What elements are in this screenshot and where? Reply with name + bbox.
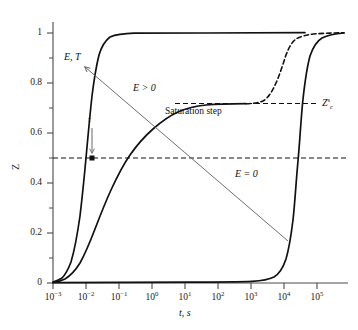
y-axis-title-text: Z	[10, 164, 21, 170]
x-tick-label-1e4: 104	[269, 292, 299, 302]
x-axis-title-text: t, s	[179, 307, 191, 318]
zero-field-label: E = 0	[235, 168, 258, 179]
positive-field-label: E > 0	[133, 82, 156, 93]
x-tick-mantissa: 10	[78, 292, 88, 302]
x-tick-mantissa: 10	[245, 292, 255, 302]
y-axis-title: Z	[10, 164, 21, 170]
x-tick-exponent: 5	[320, 290, 323, 297]
x-axis-title: t, s	[179, 307, 191, 318]
x-tick-mantissa: 10	[311, 292, 321, 302]
x-tick-label-1e0: 100	[137, 292, 167, 302]
x-tick-mantissa: 10	[278, 292, 288, 302]
x-tick-mantissa: 10	[45, 292, 55, 302]
y-axis-minor-ticks	[49, 58, 53, 258]
critical-saturation-superscript: s	[328, 96, 331, 103]
x-tick-label-1e1: 101	[170, 292, 200, 302]
field-direction-label: E, T	[64, 51, 81, 62]
x-tick-mantissa: 10	[179, 292, 189, 302]
x-tick-exponent: 0	[155, 290, 158, 297]
chart-plot-area	[0, 0, 358, 330]
x-tick-exponent: 2	[221, 290, 224, 297]
x-tick-mantissa: 10	[212, 292, 222, 302]
y-tick-label-0-6: 0.6	[18, 127, 42, 137]
y-tick-label-0-8: 0.8	[18, 77, 42, 87]
x-tick-exponent: −2	[87, 290, 94, 297]
tau-marker	[90, 156, 95, 161]
y-tick-label-1: 1	[22, 27, 42, 37]
zero-field-text: E = 0	[235, 168, 258, 179]
x-tick-mantissa: 10	[111, 292, 121, 302]
y-tick-label-0-4: 0.4	[18, 177, 42, 187]
x-tick-label-1e3: 103	[236, 292, 266, 302]
positive-field-text: E > 0	[133, 82, 156, 93]
tau-label: τ	[88, 115, 91, 124]
critical-saturation-label: Zsc	[322, 97, 333, 108]
x-axis-ticks	[53, 283, 317, 289]
x-tick-exponent: 4	[287, 290, 290, 297]
x-tick-exponent: −3	[54, 290, 61, 297]
critical-saturation-subscript: c	[330, 103, 333, 110]
saturation-step-label: Saturation step	[165, 106, 222, 116]
x-tick-label-1e-1: 10−1	[104, 292, 134, 302]
x-tick-mantissa: 10	[146, 292, 156, 302]
x-tick-exponent: 3	[254, 290, 257, 297]
y-tick-label-0: 0	[22, 277, 42, 287]
y-tick-label-0-2: 0.2	[18, 227, 42, 237]
x-tick-label-1e-2: 10−2	[71, 292, 101, 302]
curve-saturation-rise-dashed	[246, 33, 344, 104]
x-tick-exponent: −1	[120, 290, 127, 297]
x-tick-label-1e5: 105	[302, 292, 332, 302]
figure-container: 0 0.2 0.4 0.6 0.8 1 10−3 10−2 10−1 100 1…	[0, 0, 358, 330]
x-tick-exponent: 1	[188, 290, 191, 297]
field-gradient-arrow	[85, 67, 288, 241]
x-tick-label-1e-3: 10−3	[38, 292, 68, 302]
x-tick-label-1e2: 102	[203, 292, 233, 302]
